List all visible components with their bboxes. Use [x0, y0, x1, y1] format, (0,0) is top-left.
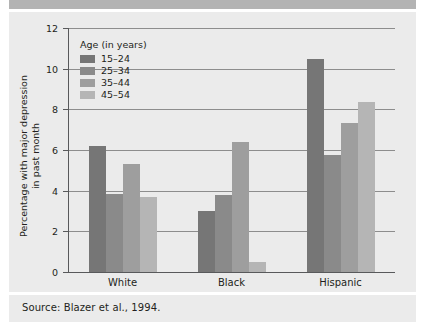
legend: Age (in years) 15–2425–3435–4445–54 [80, 39, 147, 101]
bar [89, 146, 106, 272]
legend-item: 15–24 [80, 53, 147, 64]
legend-item-label: 35–44 [101, 77, 130, 88]
y-axis-tick-label: 4 [36, 186, 58, 197]
caption-band: Source: Blazer et al., 1994. [9, 295, 416, 322]
bar [358, 102, 375, 272]
bar [249, 262, 266, 272]
x-axis-category-label: Hispanic [319, 277, 362, 288]
legend-item-label: 25–34 [101, 65, 130, 76]
legend-swatch-icon [80, 91, 95, 99]
y-axis-tick-label: 0 [36, 267, 58, 278]
legend-entries: 15–2425–3435–4445–54 [80, 53, 147, 100]
bar [324, 155, 341, 272]
legend-swatch-icon [80, 55, 95, 63]
source-caption: Source: Blazer et al., 1994. [22, 302, 160, 313]
legend-item: 25–34 [80, 65, 147, 76]
x-axis-baseline [68, 272, 395, 273]
legend-title: Age (in years) [80, 39, 147, 50]
x-axis-category-label: White [108, 277, 137, 288]
legend-item: 35–44 [80, 77, 147, 88]
bar [232, 142, 249, 272]
y-axis-tick-label: 12 [36, 23, 58, 34]
y-axis-tick-label: 10 [36, 64, 58, 75]
legend-swatch-icon [80, 79, 95, 87]
y-axis-tick-label: 8 [36, 104, 58, 115]
bar [123, 164, 140, 272]
y-axis-title: Percentage with major depression in past… [18, 61, 42, 251]
legend-item-label: 15–24 [101, 53, 130, 64]
legend-item: 45–54 [80, 89, 147, 100]
bar [198, 211, 215, 272]
bar [140, 197, 157, 272]
bar [106, 194, 123, 272]
bar [341, 123, 358, 272]
legend-swatch-icon [80, 67, 95, 75]
y-axis-tick-label: 6 [36, 145, 58, 156]
top-decorative-band [9, 0, 416, 9]
legend-item-label: 45–54 [101, 89, 130, 100]
x-axis-category-label: Black [218, 277, 245, 288]
bar [215, 195, 232, 272]
y-axis-tick-label: 2 [36, 226, 58, 237]
figure-container: Percentage with major depression in past… [0, 0, 425, 331]
bar [307, 59, 324, 273]
